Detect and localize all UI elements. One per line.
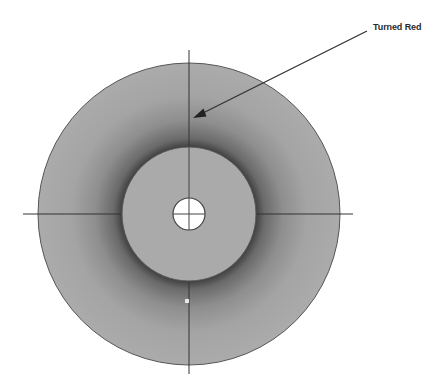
marker-square (185, 299, 189, 303)
concentric-disc-diagram (0, 0, 442, 390)
annotation-label: Turned Red (373, 22, 421, 32)
